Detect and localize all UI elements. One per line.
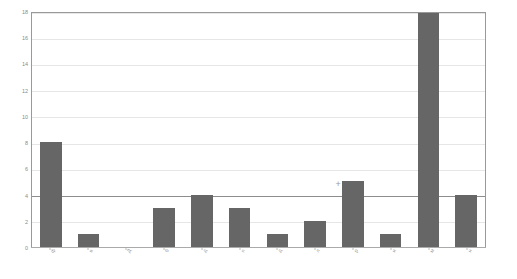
y-axis-tick-label: 8 <box>14 140 28 146</box>
bar[interactable] <box>40 142 62 247</box>
bar[interactable] <box>78 234 100 247</box>
x-axis-tick-label: м <box>428 248 435 254</box>
y-axis-tick-label: 16 <box>14 35 28 41</box>
x-axis-tick-label: б <box>163 248 170 253</box>
y-axis-tick-label: 4 <box>14 193 28 199</box>
bar[interactable] <box>418 12 440 247</box>
bar-slot <box>334 13 372 247</box>
bar-slot <box>372 13 410 247</box>
x-tick-slot: д <box>259 248 297 272</box>
bar[interactable] <box>191 195 213 247</box>
x-axis-tick-label: в <box>87 248 94 253</box>
bar-slot <box>447 13 485 247</box>
x-tick-slot: м <box>410 248 448 272</box>
bar[interactable] <box>229 208 251 247</box>
y-axis-tick-label: 10 <box>14 114 28 120</box>
bar-slot <box>32 13 70 247</box>
x-tick-slot: н <box>448 248 486 272</box>
bar-slot <box>296 13 334 247</box>
x-axis-tick-label: н <box>466 248 473 253</box>
y-axis-tick-label: 0 <box>14 245 28 251</box>
x-tick-slot: л <box>296 248 334 272</box>
x-tick-slot: б <box>145 248 183 272</box>
bar-slot <box>145 13 183 247</box>
x-axis-tick-labels: фвДбдпдлримн <box>31 248 486 272</box>
x-tick-slot: п <box>221 248 259 272</box>
bar[interactable] <box>304 221 326 247</box>
bar-slot <box>259 13 297 247</box>
y-axis-tick-label: 2 <box>14 219 28 225</box>
x-tick-slot: Д <box>107 248 145 272</box>
bar[interactable] <box>380 234 402 247</box>
bar-slot <box>410 13 448 247</box>
x-tick-slot: ф <box>31 248 69 272</box>
x-axis-tick-label: ф <box>49 247 56 254</box>
x-axis-tick-label: р <box>353 248 360 253</box>
x-tick-slot: в <box>69 248 107 272</box>
x-tick-slot: р <box>334 248 372 272</box>
y-axis-tick-label: 18 <box>14 9 28 15</box>
plot-area <box>31 12 486 248</box>
x-axis-tick-label: д <box>201 248 208 254</box>
bar[interactable] <box>153 208 175 247</box>
x-axis-tick-label: п <box>239 248 246 253</box>
x-axis-tick-label: л <box>315 248 322 254</box>
bar[interactable] <box>342 181 364 247</box>
bar-series <box>32 13 485 247</box>
y-axis-tick-label: 14 <box>14 61 28 67</box>
y-axis-tick-label: 12 <box>14 88 28 94</box>
x-tick-slot: д <box>183 248 221 272</box>
bar-chart: 024681012141618 фвДбдпдлримн + <box>0 0 517 279</box>
bar-slot <box>70 13 108 247</box>
bar[interactable] <box>455 195 477 247</box>
x-tick-slot: и <box>372 248 410 272</box>
x-axis-tick-label: и <box>391 248 398 253</box>
cursor-crosshair-icon: + <box>335 180 340 189</box>
bar-slot <box>221 13 259 247</box>
bar-slot <box>183 13 221 247</box>
bar-slot <box>108 13 146 247</box>
x-axis-tick-label: д <box>277 248 284 254</box>
y-axis-tick-label: 6 <box>14 166 28 172</box>
bar[interactable] <box>267 234 289 247</box>
x-axis-tick-label: Д <box>125 248 132 254</box>
